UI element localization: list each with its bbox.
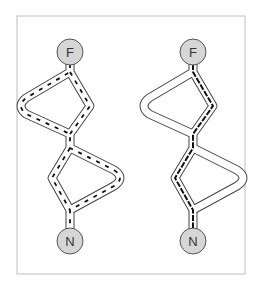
node-f-left-label: F — [66, 45, 74, 60]
node-n-left[interactable]: N — [57, 228, 83, 254]
node-n-left-label: N — [65, 234, 74, 249]
node-n-right-label: N — [188, 234, 197, 249]
node-f-left[interactable]: F — [57, 39, 83, 65]
frame-border — [17, 16, 245, 274]
diagram-canvas: F N F N — [0, 0, 256, 285]
node-f-right[interactable]: F — [180, 39, 206, 65]
node-f-right-label: F — [189, 45, 197, 60]
node-n-right[interactable]: N — [180, 228, 206, 254]
